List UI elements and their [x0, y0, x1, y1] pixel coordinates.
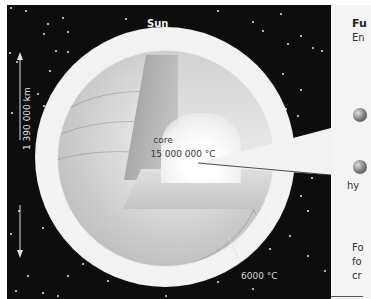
- star: [262, 30, 264, 32]
- star: [280, 13, 282, 15]
- panel-bottom-rule: [331, 296, 363, 297]
- star: [42, 227, 44, 229]
- panel-paragraph-line: Fo: [352, 242, 364, 253]
- star: [252, 21, 254, 23]
- space-background: Sun core 15 000 000 °C 1 390 000 km 6000…: [7, 5, 331, 299]
- star: [307, 210, 309, 212]
- panel-subheading: En: [352, 32, 365, 43]
- star: [25, 10, 27, 12]
- surface-temperature-label: 6000 °C: [241, 271, 278, 281]
- star: [10, 7, 12, 9]
- star: [287, 43, 289, 45]
- star: [27, 275, 29, 277]
- star: [67, 275, 69, 277]
- star: [269, 248, 271, 250]
- star: [9, 52, 11, 54]
- star: [49, 70, 51, 72]
- star: [11, 112, 13, 114]
- star: [311, 177, 313, 179]
- star: [16, 61, 18, 63]
- star: [10, 233, 12, 235]
- star: [55, 50, 57, 52]
- star: [125, 18, 127, 20]
- star: [217, 281, 219, 283]
- star: [107, 280, 109, 282]
- star: [217, 10, 219, 12]
- panel-paragraph-line: cr: [352, 270, 362, 281]
- star: [297, 115, 299, 117]
- star: [282, 73, 284, 75]
- star: [300, 195, 302, 197]
- star: [252, 288, 254, 290]
- star: [57, 295, 59, 297]
- star: [307, 255, 309, 257]
- star: [67, 51, 69, 53]
- panel-heading: Fu: [352, 17, 367, 30]
- core-temperature-label: 15 000 000 °C: [133, 149, 233, 159]
- star: [42, 292, 44, 294]
- star: [289, 235, 291, 237]
- star: [324, 270, 326, 272]
- diameter-label: 1 390 000 km: [22, 87, 32, 150]
- sun-core: [161, 113, 241, 183]
- star: [300, 89, 302, 91]
- star: [37, 93, 39, 95]
- star: [18, 210, 20, 212]
- star: [15, 290, 17, 292]
- star: [62, 17, 64, 19]
- star: [321, 50, 323, 52]
- star: [300, 35, 302, 37]
- panel-paragraph-line: fo: [352, 256, 362, 267]
- panel-text-line: hy: [347, 180, 359, 191]
- star: [312, 47, 314, 49]
- star: [165, 295, 167, 297]
- star: [67, 31, 69, 33]
- particle-sphere-icon: [353, 160, 367, 174]
- side-info-panel: [331, 5, 371, 299]
- particle-sphere-icon: [353, 108, 367, 122]
- star: [47, 23, 49, 25]
- star: [310, 155, 312, 157]
- core-label: core: [128, 135, 198, 145]
- star: [43, 33, 45, 35]
